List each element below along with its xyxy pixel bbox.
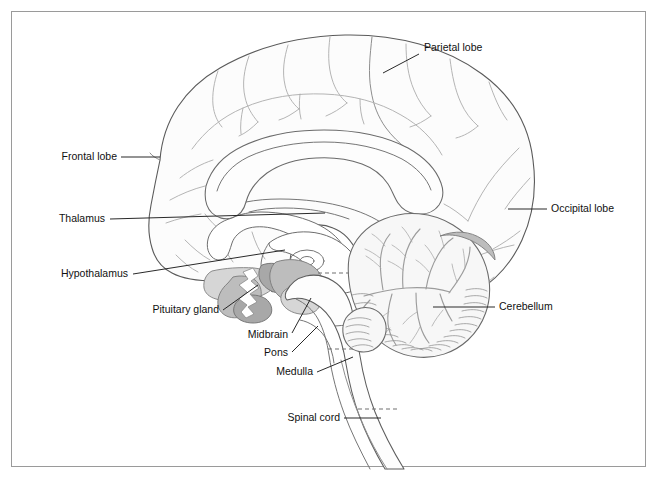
cerebellar-tonsil <box>343 307 386 352</box>
label-pituitary-gland: Pituitary gland <box>152 303 219 315</box>
label-hypothalamus: Hypothalamus <box>61 267 128 279</box>
label-parietal-lobe: Parietal lobe <box>424 41 483 53</box>
brain-diagram-svg: Parietal lobe Frontal lobe Occipital lob… <box>0 0 657 479</box>
label-cerebellum: Cerebellum <box>499 300 553 312</box>
cerebrum-group <box>149 35 535 469</box>
label-frontal-lobe: Frontal lobe <box>62 150 118 162</box>
label-spinal-cord: Spinal cord <box>287 411 340 423</box>
brain-diagram-figure: Parietal lobe Frontal lobe Occipital lob… <box>0 0 657 479</box>
label-pons: Pons <box>264 346 288 358</box>
label-occipital-lobe: Occipital lobe <box>551 202 614 214</box>
label-midbrain: Midbrain <box>248 328 288 340</box>
label-medulla: Medulla <box>276 365 313 377</box>
label-thalamus: Thalamus <box>59 212 105 224</box>
leader-pons <box>292 326 318 352</box>
frontal-pole-notch <box>150 153 160 160</box>
